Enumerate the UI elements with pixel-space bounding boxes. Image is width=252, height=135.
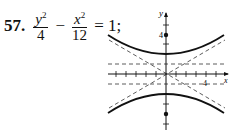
svg-text:x: x: [223, 76, 228, 85]
hyperbola-graph: y 4 4 x: [0, 0, 252, 135]
svg-text:4: 4: [203, 79, 207, 88]
svg-text:y: y: [158, 8, 163, 18]
focus-bottom: [164, 112, 168, 116]
focus-top: [164, 33, 168, 37]
svg-text:4: 4: [159, 31, 163, 40]
